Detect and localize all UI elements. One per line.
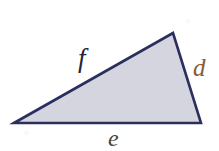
geometry-figure: f d e — [0, 0, 219, 151]
side-label-e: e — [108, 126, 119, 150]
side-label-f: f — [78, 45, 86, 72]
triangle-shape — [14, 33, 201, 123]
side-label-d: d — [193, 55, 206, 80]
